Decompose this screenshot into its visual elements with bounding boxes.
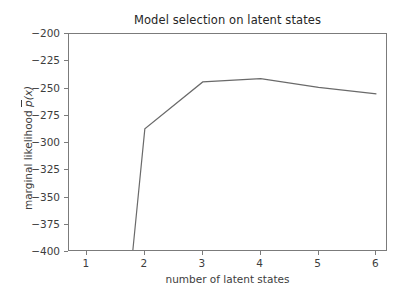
series-clip bbox=[69, 34, 386, 250]
y-axis-label-prefix: marginal likelihood bbox=[22, 107, 34, 210]
y-tick-label: −200 bbox=[16, 27, 60, 39]
y-tick-mark bbox=[64, 251, 68, 252]
x-tick-mark bbox=[260, 251, 261, 255]
line-series bbox=[69, 34, 386, 250]
x-tick-label: 6 bbox=[372, 257, 379, 269]
y-axis-label-suffix: (x) bbox=[22, 86, 34, 100]
x-tick-label: 1 bbox=[83, 257, 90, 269]
x-tick-mark bbox=[375, 251, 376, 255]
chart-title: Model selection on latent states bbox=[68, 13, 387, 27]
x-tick-label: 2 bbox=[140, 257, 147, 269]
x-tick-label: 4 bbox=[256, 257, 263, 269]
x-tick-label: 5 bbox=[314, 257, 321, 269]
x-tick-mark bbox=[144, 251, 145, 255]
x-tick-mark bbox=[202, 251, 203, 255]
y-axis-label: marginal likelihood p(x) bbox=[22, 39, 34, 257]
plot-area bbox=[68, 33, 387, 251]
x-tick-mark bbox=[86, 251, 87, 255]
x-tick-label: 3 bbox=[198, 257, 205, 269]
x-axis-label: number of latent states bbox=[68, 273, 387, 285]
x-tick-mark bbox=[318, 251, 319, 255]
y-axis-label-barred-symbol: p bbox=[22, 100, 34, 107]
chart-figure: Model selection on latent states −400−37… bbox=[0, 0, 415, 296]
